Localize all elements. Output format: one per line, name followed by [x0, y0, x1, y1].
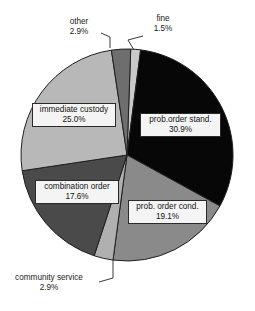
- slice-label-combination-order-percent: 17.6%: [39, 192, 115, 202]
- slice-label-community-service: community service 2.9%: [2, 273, 96, 293]
- slice-label-prob-order-cond: prob. order cond. 19.1%: [128, 200, 207, 224]
- leader-line-fine: [128, 36, 143, 50]
- slice-label-immediate-custody: immediate custody 25.0%: [32, 103, 116, 127]
- slice-label-combination-order: combination order 17.6%: [35, 180, 119, 204]
- slice-label-immediate-custody-percent: 25.0%: [36, 115, 112, 125]
- slice-label-other-name: other: [55, 17, 103, 27]
- slice-label-fine: fine 1.5%: [145, 14, 181, 34]
- leader-line-community-service: [99, 260, 113, 282]
- slice-label-immediate-custody-name: immediate custody: [36, 105, 112, 115]
- slice-label-prob-order-stand-percent: 30.9%: [144, 125, 217, 135]
- slice-label-combination-order-name: combination order: [39, 182, 115, 192]
- slice-label-community-service-name: community service: [2, 273, 96, 283]
- slice-label-prob-order-cond-name: prob. order cond.: [132, 202, 203, 212]
- slice-label-fine-percent: 1.5%: [145, 24, 181, 34]
- slice-label-prob-order-stand: prob.order stand. 30.9%: [140, 113, 221, 137]
- slice-label-community-service-percent: 2.9%: [2, 283, 96, 293]
- pie-slice-group: [21, 49, 233, 261]
- pie-chart-canvas: [0, 0, 255, 311]
- slice-label-fine-name: fine: [145, 14, 181, 24]
- slice-label-prob-order-stand-name: prob.order stand.: [144, 115, 217, 125]
- slice-label-other-percent: 2.9%: [55, 27, 103, 37]
- slice-label-prob-order-cond-percent: 19.1%: [132, 212, 203, 222]
- slice-label-other: other 2.9%: [55, 17, 103, 37]
- pie-chart-figure: other 2.9% fine 1.5% community service 2…: [0, 0, 255, 311]
